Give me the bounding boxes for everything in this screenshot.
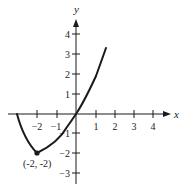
y-tick-label: −2 — [59, 148, 70, 159]
x-tick-label: 4 — [151, 121, 156, 132]
y-tick-label: 4 — [65, 29, 70, 40]
y-tick-label: 1 — [65, 89, 70, 100]
y-tick-label: 3 — [65, 49, 70, 60]
y-tick-label: 2 — [65, 69, 70, 80]
x-axis-arrow-icon — [163, 111, 171, 117]
x-axis: −2 −1 1 2 3 4 x — [8, 108, 179, 132]
x-tick-label: 1 — [94, 121, 99, 132]
y-axis-arrow-icon — [73, 19, 79, 27]
y-tick-label: −3 — [59, 168, 70, 179]
y-axis: 4 3 2 1 −1 −2 −3 y — [59, 3, 80, 184]
y-axis-label: y — [73, 3, 79, 15]
x-tick-label: 3 — [132, 121, 137, 132]
minimum-point-label: (-2, -2) — [23, 158, 51, 170]
x-tick-label: −2 — [32, 121, 43, 132]
function-graph: −2 −1 1 2 3 4 x 4 3 2 1 −1 −2 −3 y (-2, … — [0, 0, 192, 191]
x-axis-label: x — [173, 108, 179, 120]
x-tick-label: 2 — [113, 121, 118, 132]
minimum-point-marker — [34, 150, 39, 155]
